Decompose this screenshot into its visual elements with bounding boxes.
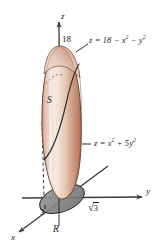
radicand-3: 3	[93, 202, 99, 213]
y-intercept-sqrt3: √3	[88, 201, 99, 213]
region-label-R: R	[53, 225, 59, 235]
lower-paraboloid-equation: z = x2 + 5y2	[94, 139, 136, 148]
z-intercept-18: 18	[62, 35, 71, 44]
z-axis-label: z	[61, 12, 65, 21]
y-axis-label: y	[146, 187, 150, 196]
leader-upper-equation	[76, 44, 88, 52]
solid-label-S: S	[47, 96, 52, 106]
x-intercept-3: 3	[40, 208, 45, 217]
x-axis-label: x	[11, 233, 15, 242]
math-figure-3d-solid: z y x 18 S R 3 z = 18 − x2 − y2 z = x2 +…	[0, 0, 158, 252]
solid-S-group	[42, 46, 82, 199]
upper-paraboloid-equation: z = 18 − x2 − y2	[89, 36, 146, 45]
